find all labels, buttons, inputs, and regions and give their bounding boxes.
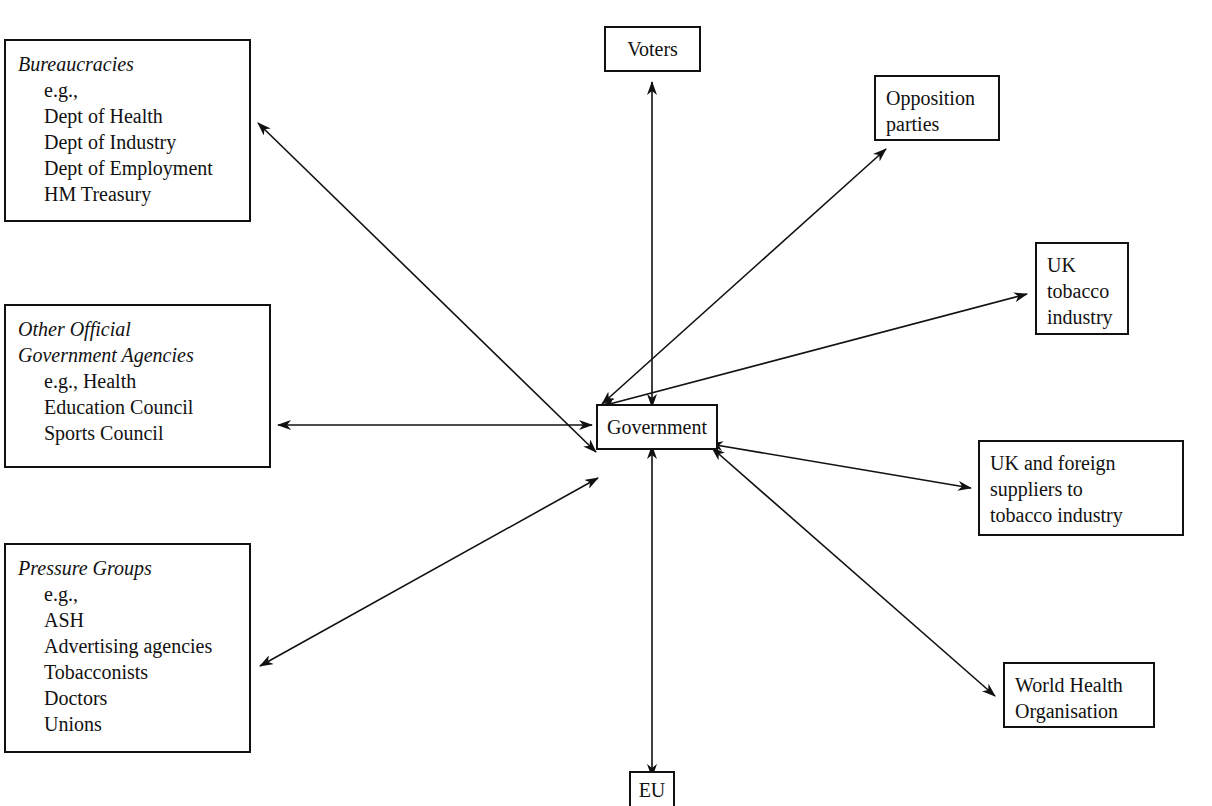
suppliers-label: UK and foreign xyxy=(990,450,1172,476)
pressure-groups-item: Doctors xyxy=(18,685,237,711)
eu-box: EU xyxy=(629,771,675,806)
suppliers-label: tobacco industry xyxy=(990,502,1172,528)
uk-tobacco-label: tobacco xyxy=(1047,278,1117,304)
pressure-groups-item: ASH xyxy=(18,607,237,633)
uk-tobacco-label: industry xyxy=(1047,304,1117,330)
pressure-groups-item: e.g., xyxy=(18,581,237,607)
voters-box: Voters xyxy=(604,26,701,72)
government-box: Government xyxy=(596,404,718,450)
arrow-uk-tobacco xyxy=(602,294,1027,406)
eu-label: EU xyxy=(639,777,666,803)
pressure-groups-item: Unions xyxy=(18,711,237,737)
pressure-groups-title: Pressure Groups xyxy=(18,555,237,581)
bureaucracies-item: Dept of Health xyxy=(18,103,237,129)
arrow-bureaucracies xyxy=(258,123,596,452)
pressure-groups-box: Pressure Groups e.g., ASH Advertising ag… xyxy=(4,543,251,753)
uk-tobacco-label: UK xyxy=(1047,252,1117,278)
other-agencies-title: Government Agencies xyxy=(18,342,257,368)
suppliers-box: UK and foreign suppliers to tobacco indu… xyxy=(978,440,1184,536)
other-agencies-item: Education Council xyxy=(18,394,257,420)
pressure-groups-item: Advertising agencies xyxy=(18,633,237,659)
other-agencies-item: e.g., Health xyxy=(18,368,257,394)
bureaucracies-item: e.g., xyxy=(18,77,237,103)
bureaucracies-item: HM Treasury xyxy=(18,181,237,207)
arrow-pressure-groups xyxy=(260,478,598,666)
opposition-label: parties xyxy=(886,111,988,137)
who-label: World Health xyxy=(1015,672,1143,698)
who-label: Organisation xyxy=(1015,698,1143,724)
bureaucracies-title: Bureaucracies xyxy=(18,51,237,77)
pressure-groups-item: Tobacconists xyxy=(18,659,237,685)
voters-label: Voters xyxy=(627,36,678,62)
government-label: Government xyxy=(607,414,707,440)
arrow-opposition xyxy=(602,149,886,404)
bureaucracies-item: Dept of Industry xyxy=(18,129,237,155)
bureaucracies-item: Dept of Employment xyxy=(18,155,237,181)
opposition-label: Opposition xyxy=(886,85,988,111)
other-agencies-title: Other Official xyxy=(18,316,257,342)
uk-tobacco-box: UK tobacco industry xyxy=(1035,242,1129,335)
other-agencies-box: Other Official Government Agencies e.g.,… xyxy=(4,304,271,468)
opposition-box: Opposition parties xyxy=(874,75,1000,141)
other-agencies-item: Sports Council xyxy=(18,420,257,446)
who-box: World Health Organisation xyxy=(1003,662,1155,728)
suppliers-label: suppliers to xyxy=(990,476,1172,502)
bureaucracies-box: Bureaucracies e.g., Dept of Health Dept … xyxy=(4,39,251,222)
